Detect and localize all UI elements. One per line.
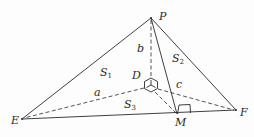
label-S3: S3 xyxy=(124,98,136,112)
edge-EF xyxy=(22,110,236,119)
hex-inner-line xyxy=(147,85,152,88)
hex-inner-line xyxy=(151,85,156,88)
vertex-F xyxy=(235,109,237,111)
label-E: E xyxy=(10,114,19,127)
label-M: M xyxy=(174,116,187,129)
vertex-E xyxy=(21,118,23,120)
diagram-canvas: P E F M D a b c S1 S2 S3 xyxy=(0,0,254,137)
label-S2: S2 xyxy=(172,52,184,66)
label-F: F xyxy=(239,106,248,119)
edge-DM xyxy=(155,92,176,113)
label-S1: S1 xyxy=(100,66,112,80)
label-c: c xyxy=(176,78,182,91)
label-a: a xyxy=(94,86,101,99)
label-P: P xyxy=(158,10,167,23)
geometry-diagram: P E F M D a b c S1 S2 S3 xyxy=(0,0,254,137)
label-b: b xyxy=(137,42,144,55)
label-D: D xyxy=(131,69,141,82)
vertex-P xyxy=(150,17,152,19)
